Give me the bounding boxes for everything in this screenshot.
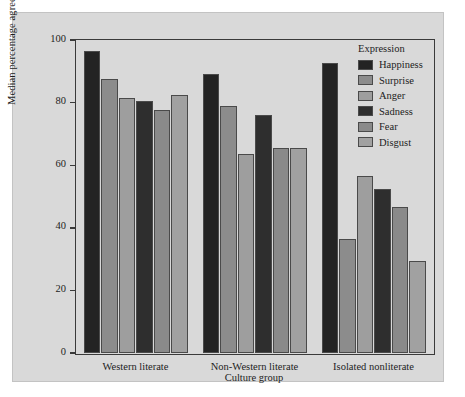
bar[interactable] [238, 154, 255, 353]
y-tick-mark [70, 102, 75, 103]
bar[interactable] [357, 176, 374, 353]
y-axis-label: Median percentage agreement [6, 0, 17, 105]
bar[interactable] [374, 189, 391, 353]
y-tick-mark [70, 39, 75, 40]
bar[interactable] [290, 148, 307, 353]
y-tick-label: 100 [50, 33, 66, 44]
y-tick-label: 80 [56, 95, 67, 106]
chart-page: Median percentage agreement 020406080100… [0, 0, 465, 397]
legend-label: Fear [379, 121, 398, 132]
legend-title: Expression [358, 43, 453, 54]
legend-swatch [358, 91, 373, 101]
legend-entry[interactable]: Fear [358, 119, 453, 135]
bar-group [84, 40, 188, 353]
bar[interactable] [409, 261, 426, 353]
legend-swatch [358, 75, 373, 85]
bar[interactable] [101, 79, 118, 353]
legend-label: Disgust [379, 137, 411, 148]
bar[interactable] [322, 63, 339, 353]
bar-group [203, 40, 307, 353]
bar[interactable] [392, 207, 409, 353]
x-axis-group-label: Western literate [103, 361, 169, 372]
legend-entry[interactable]: Surprise [358, 73, 453, 89]
bar[interactable] [171, 95, 188, 353]
y-tick-label: 60 [56, 158, 67, 169]
bar[interactable] [203, 74, 220, 353]
bar[interactable] [220, 106, 237, 353]
legend: Expression HappinessSurpriseAngerSadness… [358, 43, 453, 150]
legend-entry[interactable]: Sadness [358, 104, 453, 120]
legend-swatch [358, 122, 373, 132]
legend-entry[interactable]: Disgust [358, 135, 453, 151]
y-tick-mark [70, 165, 75, 166]
legend-label: Anger [379, 90, 405, 101]
figure-panel: Median percentage agreement 020406080100… [12, 12, 444, 382]
legend-swatch [358, 106, 373, 116]
x-axis-group-label: Isolated nonliterate [333, 361, 414, 372]
bar[interactable] [154, 110, 171, 353]
legend-swatch [358, 60, 373, 70]
legend-swatch [358, 137, 373, 147]
legend-label: Surprise [379, 75, 414, 86]
legend-entries: HappinessSurpriseAngerSadnessFearDisgust [358, 57, 453, 150]
bar[interactable] [339, 239, 356, 353]
y-tick-mark [70, 227, 75, 228]
bar[interactable] [255, 115, 272, 353]
x-axis-label: Culture group [225, 372, 284, 383]
bar[interactable] [84, 51, 101, 353]
legend-label: Happiness [379, 59, 423, 70]
legend-label: Sadness [379, 106, 413, 117]
y-tick-mark [70, 352, 75, 353]
y-tick-label: 0 [61, 346, 66, 357]
y-tick-mark [70, 290, 75, 291]
y-tick-label: 20 [56, 283, 67, 294]
x-axis-group-label: Non-Western literate [211, 361, 299, 372]
bar[interactable] [136, 101, 153, 353]
bar[interactable] [273, 148, 290, 353]
y-tick-label: 40 [56, 220, 67, 231]
legend-entry[interactable]: Happiness [358, 57, 453, 73]
bar[interactable] [119, 98, 136, 353]
legend-entry[interactable]: Anger [358, 88, 453, 104]
